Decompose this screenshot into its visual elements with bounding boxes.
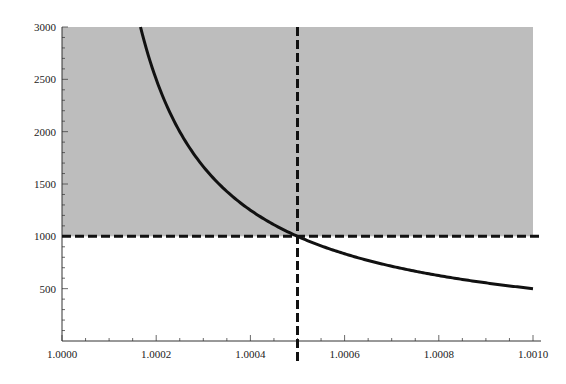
y-tick-label: 2500	[34, 73, 57, 85]
x-tick-label: 1.0000	[47, 348, 78, 360]
x-tick-label: 1.0008	[424, 348, 455, 360]
y-tick-label: 1500	[34, 178, 57, 190]
x-tick-label: 1.0006	[329, 348, 360, 360]
y-tick-label: 2000	[34, 126, 57, 138]
x-tick-label: 1.0002	[141, 348, 171, 360]
chart: 1.00001.00021.00041.00061.00081.0010 500…	[0, 0, 566, 384]
y-tick-labels: 50010001500200025003000	[34, 21, 57, 295]
y-tick-label: 3000	[34, 21, 57, 33]
y-tick-label: 500	[40, 283, 57, 295]
y-tick-label: 1000	[34, 230, 57, 242]
x-tick-label: 1.0004	[235, 348, 266, 360]
x-tick-label: 1.0010	[518, 348, 549, 360]
